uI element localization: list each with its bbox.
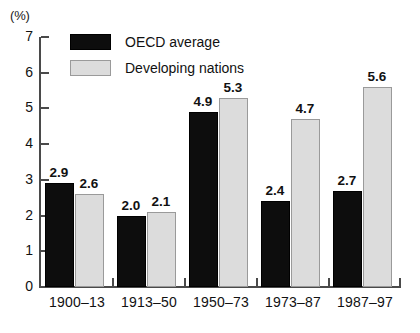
y-axis-tick-label: 5 <box>3 99 33 115</box>
y-axis-tick-label: 6 <box>3 64 33 80</box>
bar-value-label: 4.9 <box>194 94 213 109</box>
x-axis-category-label: 1900–13 <box>49 294 105 310</box>
y-axis-tick-label: 3 <box>3 171 33 187</box>
bar <box>147 212 176 287</box>
bar-value-label: 4.7 <box>296 101 315 116</box>
legend-item-oecd-average: OECD average <box>70 33 244 50</box>
y-axis-tick-label: 4 <box>3 135 33 151</box>
bar-value-label: 2.1 <box>152 194 171 209</box>
bar <box>45 183 74 287</box>
y-axis-unit-label: (%) <box>10 8 30 23</box>
x-axis-category-label: 1973–87 <box>265 294 321 310</box>
bar-value-label: 2.4 <box>266 183 285 198</box>
y-axis-tick-label: 0 <box>3 278 33 294</box>
x-axis-category-label: 1913–50 <box>121 294 177 310</box>
chart-legend: OECD average Developing nations <box>70 33 244 85</box>
bar-value-label: 2.9 <box>50 165 69 180</box>
x-axis-category-label: 1987–97 <box>337 294 393 310</box>
bar-chart: (%) 01234567 2.92.62.02.14.95.32.44.72.7… <box>0 0 420 333</box>
legend-label: OECD average <box>125 34 220 50</box>
gray-swatch-icon <box>70 60 111 76</box>
bar <box>75 194 104 287</box>
y-axis-tick-label: 2 <box>3 207 33 223</box>
bar <box>189 112 218 287</box>
black-swatch-icon <box>70 34 111 50</box>
bar <box>219 98 248 287</box>
bar <box>117 216 146 287</box>
legend-label: Developing nations <box>125 60 244 76</box>
bar <box>363 87 392 287</box>
bar <box>261 201 290 287</box>
bar-value-label: 2.0 <box>122 198 141 213</box>
y-axis-tick-label: 7 <box>3 28 33 44</box>
x-axis-category-label: 1950–73 <box>193 294 249 310</box>
bar-value-label: 2.7 <box>338 173 357 188</box>
legend-item-developing-nations: Developing nations <box>70 59 244 76</box>
bar-value-label: 2.6 <box>80 176 99 191</box>
bar <box>291 119 320 287</box>
y-axis-tick-label: 1 <box>3 242 33 258</box>
bar-value-label: 5.6 <box>368 69 387 84</box>
bar <box>333 191 362 287</box>
